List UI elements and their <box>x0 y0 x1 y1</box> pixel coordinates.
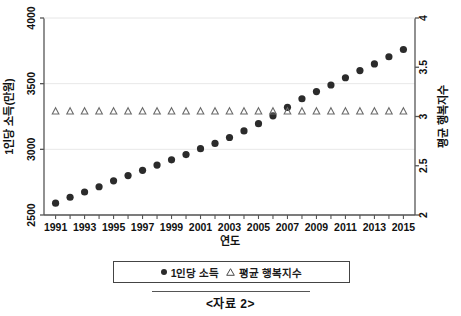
svg-text:3000: 3000 <box>25 137 37 161</box>
svg-text:평균 행복지수: 평균 행복지수 <box>436 85 449 148</box>
svg-text:2001: 2001 <box>189 221 213 233</box>
legend-label-income: 1인당 소득 <box>171 265 220 280</box>
svg-text:1991: 1991 <box>44 221 68 233</box>
svg-text:1999: 1999 <box>160 221 184 233</box>
svg-text:3.5: 3.5 <box>417 60 429 75</box>
open-triangle-icon <box>226 266 235 278</box>
figure-caption: <자료 2> <box>0 294 461 311</box>
svg-text:2: 2 <box>417 212 429 218</box>
svg-text:2013: 2013 <box>363 221 387 233</box>
svg-text:2015: 2015 <box>392 221 416 233</box>
svg-text:2011: 2011 <box>334 221 357 233</box>
svg-text:2009: 2009 <box>305 221 329 233</box>
svg-text:2003: 2003 <box>218 221 242 233</box>
svg-text:2005: 2005 <box>247 221 271 233</box>
svg-text:4000: 4000 <box>25 6 37 30</box>
series-income <box>52 46 407 207</box>
svg-text:1993: 1993 <box>73 221 97 233</box>
svg-text:2500: 2500 <box>25 203 37 227</box>
svg-text:1인당 소득(만원): 1인당 소득(만원) <box>2 78 15 155</box>
legend-label-happiness: 평균 행복지수 <box>239 265 302 280</box>
svg-text:2007: 2007 <box>276 221 300 233</box>
legend-item-happiness: 평균 행복지수 <box>226 265 302 280</box>
svg-text:연도: 연도 <box>220 234 240 247</box>
filled-circle-icon <box>161 269 167 275</box>
svg-text:2.5: 2.5 <box>417 158 429 173</box>
chart-legend: 1인당 소득 평균 행복지수 <box>113 261 350 283</box>
series-happiness <box>52 108 406 114</box>
svg-text:3500: 3500 <box>25 72 37 96</box>
svg-text:1995: 1995 <box>102 221 126 233</box>
svg-text:1997: 1997 <box>131 221 155 233</box>
svg-text:3: 3 <box>417 113 429 119</box>
legend-item-income: 1인당 소득 <box>161 265 220 280</box>
caption-divider <box>152 291 310 292</box>
svg-text:4: 4 <box>417 15 429 21</box>
